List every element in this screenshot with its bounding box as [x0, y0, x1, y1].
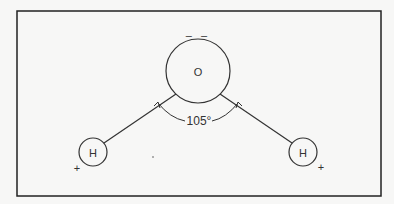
- bond-right: [220, 94, 292, 143]
- oxygen-charge: – –: [186, 29, 210, 41]
- hydrogen-right-charge: +: [318, 161, 324, 173]
- hydrogen-right-label: H: [299, 147, 307, 159]
- angle-arc-right: [212, 103, 238, 121]
- dot-mark: [152, 156, 154, 158]
- oxygen-label: O: [194, 66, 203, 78]
- angle-arc-left: [158, 103, 185, 121]
- bond-angle-label: 105°: [187, 114, 212, 128]
- bond-left: [104, 94, 176, 143]
- hydrogen-left-charge: +: [74, 162, 80, 174]
- hydrogen-left-label: H: [89, 147, 97, 159]
